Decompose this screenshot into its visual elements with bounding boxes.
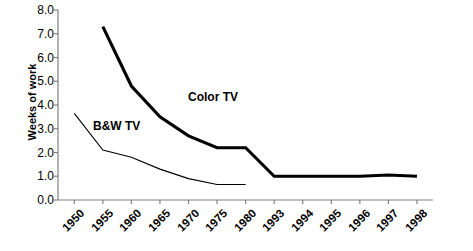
y-tick-label: 3.0 xyxy=(37,123,54,135)
x-tick-label: 1996 xyxy=(340,207,373,240)
chart-series-group xyxy=(74,27,417,185)
chart-container: Weeks of work 0.01.02.03.04.05.06.07.08.… xyxy=(0,0,473,251)
x-tick-label: 1965 xyxy=(140,207,173,240)
x-tick-label: 1970 xyxy=(168,207,201,240)
x-tick-label: 1995 xyxy=(311,207,344,240)
y-tick-label: 5.0 xyxy=(37,75,54,87)
x-axis-tick-labels: 1950195519601965197019751980199319941995… xyxy=(0,201,473,251)
x-tick-label: 1993 xyxy=(254,207,287,240)
y-tick-label: 6.0 xyxy=(37,52,54,64)
x-tick-label: 1994 xyxy=(283,207,316,240)
x-tick-label: 1980 xyxy=(226,207,259,240)
x-tick-label: 1998 xyxy=(397,207,430,240)
series-label-bw-tv: B&W TV xyxy=(93,119,140,133)
x-tick-label: 1950 xyxy=(54,207,87,240)
series-line-color-tv xyxy=(103,27,417,177)
x-tick-label: 1955 xyxy=(83,207,116,240)
x-tick-label: 1997 xyxy=(368,207,401,240)
y-tick-label: 7.0 xyxy=(37,28,54,40)
y-tick-label: 4.0 xyxy=(37,99,54,111)
x-tick-label: 1975 xyxy=(197,207,230,240)
x-tick-label: 1960 xyxy=(111,207,144,240)
plot-area xyxy=(58,10,433,200)
y-tick-label: 2.0 xyxy=(37,147,54,159)
y-tick-label: 8.0 xyxy=(37,4,54,16)
y-tick-label: 1.0 xyxy=(37,170,54,182)
series-label-color-tv: Color TV xyxy=(188,90,238,104)
